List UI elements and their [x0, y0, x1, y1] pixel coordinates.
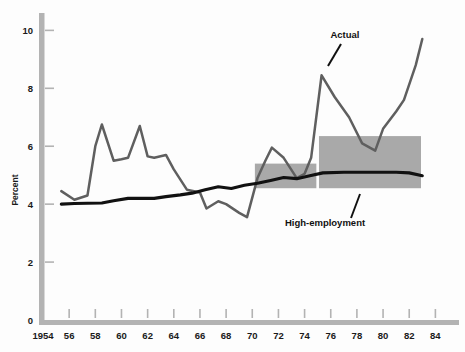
y-tick-label: 8 — [28, 83, 33, 94]
x-tick — [278, 309, 280, 318]
x-tick-label: 1954 — [32, 330, 54, 341]
x-tick-label: 58 — [90, 330, 101, 341]
x-tick-label: 72 — [273, 330, 284, 341]
y-tick-label: 10 — [22, 25, 33, 36]
x-tick — [330, 309, 332, 318]
x-tick — [304, 309, 306, 318]
x-tick-label: 74 — [299, 330, 310, 341]
y-axis-spine — [39, 13, 45, 324]
x-tick — [435, 309, 437, 318]
x-tick — [199, 309, 201, 318]
y-tick — [45, 261, 54, 263]
y-tick-label: 0 — [28, 315, 33, 326]
chart-figure: 0246810 19545658606264666870727476788082… — [0, 0, 465, 352]
x-tick-label: 60 — [116, 330, 127, 341]
x-tick — [408, 309, 410, 318]
y-tick — [45, 88, 54, 90]
band-1975-1983 — [319, 136, 421, 188]
x-tick-label: 62 — [142, 330, 153, 341]
y-axis-bar — [39, 13, 45, 324]
x-tick — [121, 309, 123, 318]
unemployment-rate-line-chart: 0246810 19545658606264666870727476788082… — [0, 0, 465, 352]
x-tick-label: 78 — [352, 330, 363, 341]
y-tick-label: 6 — [28, 141, 33, 152]
x-tick-label: 80 — [378, 330, 389, 341]
x-tick — [356, 309, 358, 318]
x-tick — [173, 309, 175, 318]
x-tick-label: 84 — [430, 330, 441, 341]
y-tick — [45, 30, 54, 32]
x-tick — [251, 309, 253, 318]
y-tick-label: 2 — [28, 257, 33, 268]
y-tick — [45, 145, 54, 147]
y-tick-label: 4 — [28, 199, 34, 210]
x-tick-label: 66 — [195, 330, 206, 341]
high-employment-label: High-employment — [285, 217, 366, 228]
x-tick — [95, 309, 97, 318]
x-tick-label: 76 — [325, 330, 336, 341]
x-tick-label: 56 — [64, 330, 75, 341]
x-axis-bar — [39, 320, 459, 325]
x-tick — [382, 309, 384, 318]
y-tick — [45, 203, 54, 205]
actual-label: Actual — [330, 29, 359, 40]
x-tick — [68, 309, 70, 318]
x-tick-label: 64 — [169, 330, 180, 341]
x-tick — [147, 309, 149, 318]
x-tick-label: 82 — [404, 330, 415, 341]
x-tick-label: 70 — [247, 330, 258, 341]
y-axis-title: Percent — [10, 174, 20, 205]
x-tick-label: 68 — [221, 330, 232, 341]
x-tick — [225, 309, 227, 318]
x-axis-spine — [39, 320, 459, 325]
